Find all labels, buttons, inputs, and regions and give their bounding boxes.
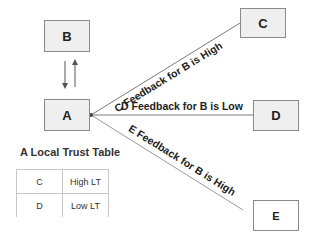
node-b-label: B [62, 29, 71, 44]
node-a-label: A [62, 108, 71, 123]
node-b[interactable]: B [44, 20, 90, 52]
node-e-label: E [272, 210, 279, 222]
table-cell-node: D [17, 194, 63, 218]
edge-label-a-d: D Feedback for B is Low [121, 100, 243, 112]
table-cell-node: C [17, 170, 63, 194]
trust-table-title: A Local Trust Table [20, 146, 120, 158]
node-e[interactable]: E [253, 200, 299, 231]
table-cell-value: High LT [63, 170, 109, 194]
node-c[interactable]: C [240, 8, 286, 38]
trust-table: C High LT D Low LT [16, 169, 109, 217]
table-row: D Low LT [17, 194, 109, 218]
node-a[interactable]: A [44, 99, 90, 131]
node-d[interactable]: D [253, 100, 299, 131]
table-row: C High LT [17, 170, 109, 194]
table-cell-value: Low LT [63, 194, 109, 218]
node-c-label: C [258, 16, 267, 31]
node-d-label: D [271, 108, 280, 123]
edge-a-e [91, 115, 243, 210]
